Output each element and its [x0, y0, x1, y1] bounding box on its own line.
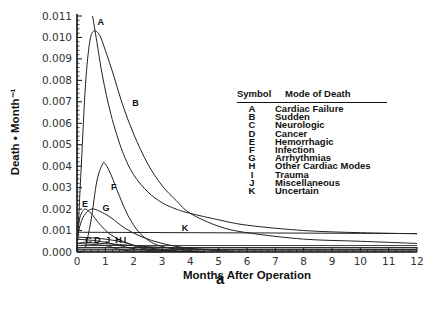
curve-label: G	[103, 203, 110, 213]
x-tick-label: 4	[187, 255, 194, 267]
x-tick-label: 5	[215, 255, 222, 267]
legend-row: ACardiac Failure	[237, 105, 387, 113]
curve-label: H	[115, 235, 122, 245]
y-tick-label: 0.002	[42, 203, 72, 215]
curve-label: J	[105, 235, 110, 245]
y-tick-label: 0.000	[42, 246, 72, 258]
x-tick-label: 3	[159, 255, 166, 267]
y-tick-label: 0.001	[42, 224, 72, 236]
legend-row: HOther Cardiac Modes	[237, 162, 387, 170]
y-tick-label: 0.005	[42, 138, 72, 150]
legend-row: KUncertain	[237, 187, 387, 195]
panel-label: a	[216, 270, 224, 287]
legend-row: CNeurologic	[237, 121, 387, 129]
x-tick-label: 7	[272, 255, 279, 267]
x-tick-label: 6	[244, 255, 251, 267]
curve-label: B	[132, 98, 139, 108]
y-tick-label: 0.003	[42, 181, 72, 193]
curve-label: K	[182, 223, 189, 233]
legend-header-mode: Mode of Death	[285, 88, 350, 99]
legend-header: Symbol Mode of Death	[237, 88, 387, 103]
x-tick-label: 8	[300, 255, 307, 267]
y-tick-label: 0.008	[42, 74, 72, 86]
curve-label: C	[85, 235, 92, 245]
x-tick-label: 1	[102, 255, 109, 267]
curve-label: A	[97, 17, 104, 27]
curve-label: D	[94, 235, 101, 245]
curve-label: E	[82, 199, 88, 209]
y-axis-title: Death • Month⁻¹	[9, 88, 21, 175]
x-tick-label: 12	[410, 255, 423, 267]
curve-label: I	[124, 235, 127, 245]
x-axis-title: Months After Operation	[183, 269, 311, 281]
legend-header-symbol: Symbol	[237, 88, 285, 99]
x-tick-label: 0	[74, 255, 81, 267]
y-tick-label: 0.006	[42, 117, 72, 129]
legend-table: Symbol Mode of Death ACardiac FailureBSu…	[237, 88, 387, 195]
x-tick-label: 9	[329, 255, 336, 267]
y-tick-label: 0.004	[42, 160, 72, 172]
y-tick-label: 0.011	[42, 10, 72, 22]
x-tick-label: 11	[382, 255, 395, 267]
y-tick-label: 0.007	[42, 95, 72, 107]
curve-label: F	[111, 182, 117, 192]
x-tick-label: 10	[354, 255, 367, 267]
legend-rows: ACardiac FailureBSuddenCNeurologicDCance…	[237, 105, 387, 195]
legend-mode: Uncertain	[275, 187, 319, 195]
legend-symbol: K	[241, 187, 263, 195]
y-tick-label: 0.009	[42, 52, 72, 64]
x-tick-label: 2	[130, 255, 137, 267]
y-tick-label: 0.010	[42, 31, 72, 43]
